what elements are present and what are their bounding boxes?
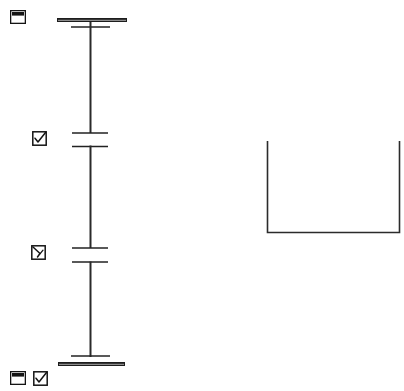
checkbox-checked-icon	[31, 245, 46, 260]
drawing-canvas: Scanned engineering elevation detail	[0, 0, 404, 391]
column-base-plate	[58, 362, 125, 366]
u-bracket-detail	[268, 141, 400, 233]
checkbox-checked-upper[interactable]: Checked box marker	[32, 131, 47, 146]
window-icon-top-left[interactable]: Window marker	[10, 10, 26, 24]
technical-drawing	[0, 0, 404, 391]
window-icon-glyph	[10, 10, 26, 24]
checkbox-checked-lower[interactable]: Checked box marker	[31, 245, 46, 260]
checkbox-checked-icon	[33, 371, 48, 386]
column-joint-upper	[72, 133, 108, 147]
column-joint-lower	[72, 248, 108, 262]
checkbox-checked-bottom[interactable]: Checked box marker	[33, 371, 48, 386]
column-top-plate	[57, 18, 127, 22]
column-elevation	[57, 18, 127, 366]
window-icon-glyph	[10, 371, 26, 385]
window-icon-bottom-left[interactable]: Window marker	[10, 371, 26, 385]
checkbox-checked-icon	[32, 131, 47, 146]
